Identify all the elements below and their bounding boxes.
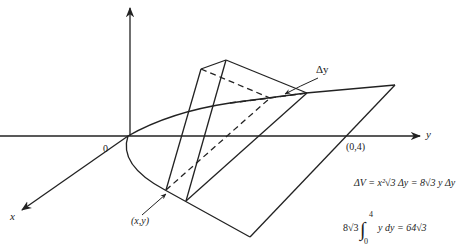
integral-coefficient: 8√3 — [343, 222, 359, 233]
hidden-edge-base — [166, 98, 270, 190]
point-pointer — [142, 194, 166, 215]
integral-lower-limit: 0 — [364, 237, 368, 246]
parabola-back-branch — [128, 93, 306, 136]
x-axis — [22, 136, 128, 210]
slab-edge-left-front — [166, 69, 201, 190]
delta-y-label: Δy — [316, 63, 329, 75]
integral-body: y dy = 64√3 — [377, 222, 427, 233]
point-label: (x,y) — [131, 215, 150, 227]
base-right-edge — [250, 85, 395, 237]
x-axis-label: x — [9, 210, 15, 222]
slab-ridge — [226, 60, 307, 93]
slab-top-edge — [201, 60, 226, 69]
y-axis-label: y — [425, 128, 431, 140]
integral-upper-limit: 4 — [369, 210, 373, 219]
solid-volume-diagram: Δy (x,y) 0 y x (0,4) ΔV = x²√3 Δy = 8√3 … — [0, 0, 461, 251]
slab-front-base-edge — [186, 93, 307, 201]
volume-element-equation: ΔV = x²√3 Δy = 8√3 y Δy — [353, 177, 456, 188]
intercept-label: (0,4) — [346, 141, 365, 153]
slab-edge-right-front — [186, 60, 226, 201]
origin-label: 0 — [103, 143, 108, 154]
base-back-edge-top — [306, 85, 395, 93]
